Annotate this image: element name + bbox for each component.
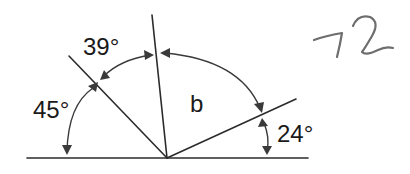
label-45-degree: 45° [33,96,69,123]
ray-45-degree [69,56,167,158]
ray-vertical [152,15,167,158]
label-angle-b: b [190,90,203,117]
handwritten-answer-72 [314,16,393,57]
arrowhead-icon [254,102,264,113]
handwritten-digit-2 [353,16,393,53]
arc-b [160,48,264,113]
arrowhead-icon [258,118,268,127]
label-24-degree: 24° [277,120,313,147]
arc-24-degree [258,118,272,155]
handwritten-digit-7 [314,33,342,57]
arrowhead-icon [262,146,272,155]
label-39-degree: 39° [83,33,119,60]
arrowhead-icon [62,145,72,155]
arrowhead-icon [144,50,154,60]
angle-diagram: 45° 39° b 24° [0,0,410,174]
arrowhead-icon [160,48,170,58]
